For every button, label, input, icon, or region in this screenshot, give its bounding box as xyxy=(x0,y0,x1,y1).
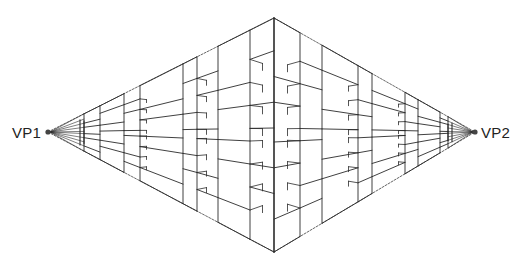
vp1-point xyxy=(45,129,50,134)
perspective-diagram xyxy=(0,0,517,268)
vp2-label: VP2 xyxy=(481,125,510,140)
vanishing-points xyxy=(45,129,477,134)
building-lines xyxy=(50,18,473,252)
vp2-point xyxy=(472,129,477,134)
vp1-label: VP1 xyxy=(12,125,41,140)
diamond-outline xyxy=(48,18,475,252)
